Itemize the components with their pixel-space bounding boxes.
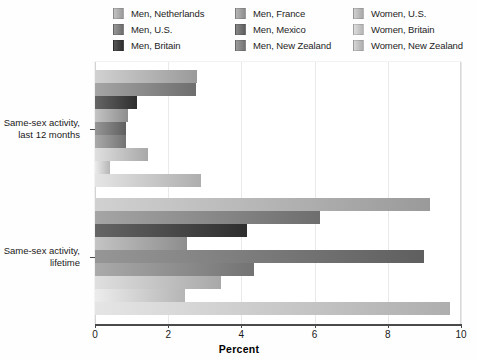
legend-label: Women, U.S. bbox=[371, 8, 426, 19]
legend-item[interactable]: Men, Britain bbox=[113, 38, 235, 52]
bar bbox=[95, 276, 221, 289]
bar bbox=[95, 109, 128, 122]
legend-label: Men, U.S. bbox=[131, 24, 172, 35]
category-tick bbox=[90, 129, 95, 131]
x-tick-label: 0 bbox=[92, 329, 98, 340]
gridline-x-4 bbox=[241, 62, 242, 324]
legend-label: Men, France bbox=[253, 8, 305, 19]
legend-column-1: Men, FranceMen, MexicoMen, New Zealand bbox=[235, 6, 353, 52]
legend-swatch-icon bbox=[353, 8, 364, 19]
bar bbox=[95, 224, 247, 237]
legend-swatch-icon bbox=[235, 8, 246, 19]
x-tick-10 bbox=[461, 324, 462, 328]
bar bbox=[95, 174, 201, 187]
bar bbox=[95, 96, 137, 109]
legend-label: Men, New Zealand bbox=[253, 40, 331, 51]
bar bbox=[95, 161, 110, 174]
category-label-line: last 12 months bbox=[0, 129, 80, 141]
legend-swatch-icon bbox=[113, 40, 124, 51]
gridline-x-6 bbox=[315, 62, 316, 324]
x-tick-label: 10 bbox=[455, 329, 466, 340]
bar bbox=[95, 70, 197, 83]
x-tick-0 bbox=[95, 324, 96, 328]
legend-column-0: Men, NetherlandsMen, U.S.Men, Britain bbox=[113, 6, 235, 52]
legend-swatch-icon bbox=[113, 8, 124, 19]
bar bbox=[95, 302, 450, 315]
legend-item[interactable]: Women, New Zealand bbox=[353, 38, 471, 52]
x-tick-label: 8 bbox=[385, 329, 391, 340]
chart-plot-area bbox=[95, 62, 461, 324]
legend-label: Men, Netherlands bbox=[131, 8, 204, 19]
x-axis-line bbox=[95, 324, 462, 326]
x-tick-6 bbox=[315, 324, 316, 328]
category-label-line: lifetime bbox=[0, 257, 80, 269]
bar bbox=[95, 148, 148, 161]
category-label: Same-sex activity,last 12 months bbox=[0, 117, 80, 141]
category-label: Same-sex activity,lifetime bbox=[0, 245, 80, 269]
x-tick-8 bbox=[388, 324, 389, 328]
bar bbox=[95, 83, 196, 96]
legend-label: Men, Mexico bbox=[253, 24, 306, 35]
bar bbox=[95, 289, 185, 302]
legend-swatch-icon bbox=[353, 24, 364, 35]
x-tick-2 bbox=[168, 324, 169, 328]
x-tick-label: 4 bbox=[239, 329, 245, 340]
legend-swatch-icon bbox=[235, 24, 246, 35]
legend-label: Women, Britain bbox=[371, 24, 434, 35]
gridline-x-10 bbox=[461, 62, 462, 324]
legend-item[interactable]: Women, U.S. bbox=[353, 6, 471, 20]
legend-item[interactable]: Men, Mexico bbox=[235, 22, 353, 36]
legend-item[interactable]: Men, Netherlands bbox=[113, 6, 235, 20]
x-axis-title: Percent bbox=[0, 343, 478, 355]
legend-item[interactable]: Men, New Zealand bbox=[235, 38, 353, 52]
bar bbox=[95, 122, 126, 135]
legend-column-2: Women, U.S.Women, BritainWomen, New Zeal… bbox=[353, 6, 471, 52]
gridline-x-8 bbox=[388, 62, 389, 324]
legend-swatch-icon bbox=[353, 40, 364, 51]
legend-swatch-icon bbox=[235, 40, 246, 51]
legend-label: Men, Britain bbox=[131, 40, 181, 51]
bar bbox=[95, 263, 254, 276]
bar bbox=[95, 211, 320, 224]
category-tick bbox=[90, 257, 95, 259]
legend-swatch-icon bbox=[113, 24, 124, 35]
legend-label: Women, New Zealand bbox=[371, 40, 463, 51]
x-tick-label: 2 bbox=[165, 329, 171, 340]
bar bbox=[95, 135, 126, 148]
bar bbox=[95, 250, 424, 263]
bar bbox=[95, 237, 187, 250]
category-label-line: Same-sex activity, bbox=[0, 117, 80, 129]
x-tick-label: 6 bbox=[312, 329, 318, 340]
legend-item[interactable]: Men, U.S. bbox=[113, 22, 235, 36]
category-label-line: Same-sex activity, bbox=[0, 245, 80, 257]
bar bbox=[95, 198, 430, 211]
legend-item[interactable]: Women, Britain bbox=[353, 22, 471, 36]
chart-legend: Men, NetherlandsMen, U.S.Men, BritainMen… bbox=[113, 6, 471, 52]
x-tick-4 bbox=[241, 324, 242, 328]
legend-item[interactable]: Men, France bbox=[235, 6, 353, 20]
